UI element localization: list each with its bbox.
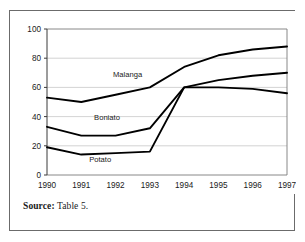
figure-frame: 020406080100 199019911992199319941995199… xyxy=(9,10,295,231)
chart-canvas: 020406080100 199019911992199319941995199… xyxy=(10,11,296,194)
x-tick-label-1991: 1991 xyxy=(72,181,91,190)
plot-background xyxy=(10,11,296,194)
x-tick-label-1994: 1994 xyxy=(175,181,194,190)
source-value: Table 5. xyxy=(55,201,89,211)
x-tick-label-1993: 1993 xyxy=(141,181,160,190)
x-tick-label-1996: 1996 xyxy=(244,181,263,190)
line-chart: 020406080100 199019911992199319941995199… xyxy=(10,11,296,194)
x-tick-label-1997: 1997 xyxy=(278,181,296,190)
source-caption: Source: Table 5. xyxy=(23,201,88,211)
source-label: Source: xyxy=(23,201,55,211)
y-tick-label-60: 60 xyxy=(32,83,42,92)
y-tick-label-0: 0 xyxy=(36,171,41,180)
x-tick-label-1995: 1995 xyxy=(209,181,228,190)
series-label-malanga: Malanga xyxy=(113,70,143,79)
y-tick-label-40: 40 xyxy=(32,113,42,122)
x-tick-label-1992: 1992 xyxy=(106,181,125,190)
series-label-boniato: Boniato xyxy=(94,113,120,122)
series-label-potato: Potato xyxy=(89,155,111,164)
x-tick-label-1990: 1990 xyxy=(38,181,57,190)
y-tick-label-20: 20 xyxy=(32,142,42,151)
y-tick-label-80: 80 xyxy=(32,54,42,63)
y-tick-label-100: 100 xyxy=(27,25,41,34)
